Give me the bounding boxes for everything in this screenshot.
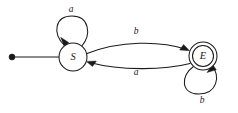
e-to-s-path bbox=[90, 63, 191, 69]
s-to-e-path bbox=[87, 43, 187, 53]
s-self-loop-path bbox=[57, 16, 88, 47]
transition-label-e-to-s: a bbox=[134, 67, 139, 77]
transition-s-to-e bbox=[87, 43, 190, 53]
start-marker bbox=[9, 54, 59, 60]
state-s-label: S bbox=[70, 51, 76, 62]
s-to-e-arrowhead bbox=[180, 45, 190, 51]
fsm-canvas: S E a b a b bbox=[0, 0, 238, 113]
transition-label-s-self: a bbox=[69, 4, 74, 14]
transition-label-s-to-e: b bbox=[134, 26, 139, 36]
transition-s-self-loop bbox=[57, 16, 88, 47]
state-e-label: E bbox=[199, 50, 207, 61]
transition-label-e-self: b bbox=[200, 95, 205, 105]
state-node-e[interactable]: E bbox=[189, 42, 217, 70]
state-node-s[interactable]: S bbox=[59, 43, 87, 71]
fsm-diagram: S E a b a b bbox=[0, 0, 238, 113]
